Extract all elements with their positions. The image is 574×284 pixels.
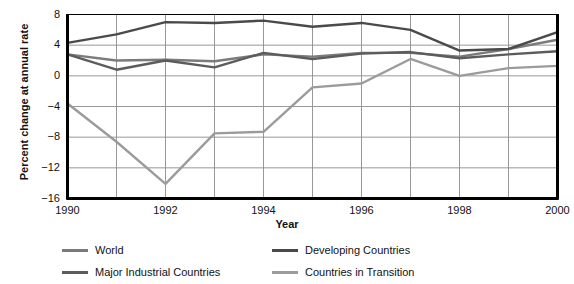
y-tick-label: 4 [18, 38, 60, 50]
legend-label: Developing Countries [305, 244, 410, 256]
legend-swatch-icon [272, 271, 298, 274]
legend-swatch-icon [62, 271, 88, 274]
y-tick-label: 8 [18, 8, 60, 20]
legend-swatch-icon [272, 249, 298, 252]
legend-item: Major Industrial Countries [62, 266, 220, 278]
y-tick-label: −12 [18, 161, 60, 173]
legend-label: Major Industrial Countries [95, 266, 220, 278]
legend-label: Countries in Transition [305, 266, 414, 278]
y-tick-label: −8 [18, 130, 60, 142]
chart-legend: WorldDeveloping CountriesMajor Industria… [0, 238, 574, 284]
x-tick-label: 1998 [430, 204, 490, 216]
legend-item: Developing Countries [272, 244, 410, 256]
x-axis-title: Year [0, 218, 574, 230]
x-tick-label: 1992 [136, 204, 196, 216]
legend-label: World [95, 244, 124, 256]
legend-item: Countries in Transition [272, 266, 414, 278]
y-tick-label: −16 [18, 192, 60, 204]
x-tick-label: 1996 [332, 204, 392, 216]
y-tick-label: 0 [18, 69, 60, 81]
y-tick-label: −4 [18, 100, 60, 112]
x-tick-label: 1990 [38, 204, 98, 216]
chart-figure: Percent change at annual rate 840−4−8−12… [0, 0, 574, 284]
legend-item: World [62, 244, 124, 256]
legend-swatch-icon [62, 249, 88, 252]
x-tick-label: 2000 [528, 204, 574, 216]
x-tick-label: 1994 [234, 204, 294, 216]
